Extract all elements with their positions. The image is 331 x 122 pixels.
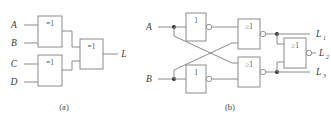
label-input-c: C (11, 59, 18, 69)
label-b-input-a: A (145, 22, 152, 32)
label-output-l2-sub: 2 (326, 54, 329, 60)
gate-inv1-bubble (206, 24, 211, 29)
gate-nor1-bubble (260, 31, 265, 36)
gate-nor2-label: ≥1 (245, 60, 253, 69)
gate-inv1-label: 1 (194, 16, 198, 25)
gate-inv2-bubble (206, 76, 211, 81)
label-output-l3-group: L 3 (315, 67, 326, 79)
label-b-input-b: B (146, 74, 152, 84)
label-input-d: D (10, 77, 18, 87)
circuit-b: 1 1 ≥1 ≥1 (145, 13, 329, 112)
label-output-l2-group: L 2 (318, 48, 329, 60)
gate-nor2-bubble (260, 69, 265, 74)
circuit-a: =1 =1 =1 A B C D L (a) (10, 16, 127, 112)
gate-xor1-label: =1 (46, 19, 54, 28)
label-output-l3-sub: 3 (322, 73, 326, 79)
label-output-l1-sub: 1 (323, 35, 326, 41)
wire-xor2-to-xor3 (62, 61, 80, 70)
gate-inv2-label: 1 (194, 68, 198, 77)
label-output-l: L (120, 49, 126, 59)
caption-a: (a) (59, 102, 69, 112)
label-output-l1: L (315, 29, 321, 39)
wire-xor1-to-xor3 (62, 31, 80, 47)
label-output-l1-group: L 1 (315, 29, 326, 41)
logic-circuit-figure: =1 =1 =1 A B C D L (a) (0, 0, 331, 122)
label-input-b: B (11, 38, 17, 48)
label-input-a: A (10, 20, 17, 30)
label-output-l3: L (315, 67, 321, 77)
gate-xor2-label: =1 (46, 58, 54, 67)
gate-nor1-label: ≥1 (245, 22, 253, 31)
gate-nor3-bubble (306, 50, 311, 55)
gate-nor3-label: ≥1 (291, 41, 299, 50)
label-output-l2: L (318, 48, 324, 58)
caption-b: (b) (225, 102, 235, 112)
gate-xor3-label: =1 (88, 42, 96, 51)
